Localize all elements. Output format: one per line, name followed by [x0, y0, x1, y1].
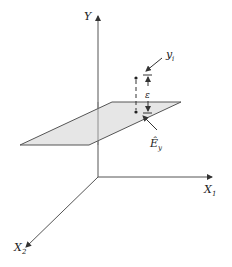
observed-pointer-arrow — [146, 58, 162, 71]
observed-subscript: i — [172, 55, 174, 63]
x1-axis-subscript: 1 — [212, 190, 216, 198]
plane-label: Ê — [149, 136, 158, 150]
x2-axis — [26, 177, 98, 247]
regression-diagram: Y X 1 X 2 ε y i Ê y — [0, 0, 232, 267]
observed-point — [134, 76, 137, 79]
plane-subscript: y — [157, 144, 163, 152]
plane-pointer-arrow — [143, 116, 157, 130]
x2-axis-subscript: 2 — [21, 248, 27, 256]
fitted-point — [134, 110, 137, 113]
epsilon-label: ε — [145, 90, 150, 100]
y-axis-label: Y — [84, 10, 93, 23]
